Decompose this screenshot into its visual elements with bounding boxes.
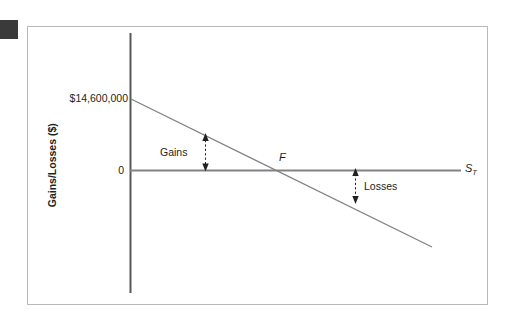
zero-tick-label: 0: [110, 165, 124, 176]
gains-label: Gains: [160, 147, 187, 158]
figure-root: $14,600,000 0 Gains/Losses ($) F ST Gain…: [0, 0, 514, 323]
payoff-line: [131, 99, 432, 247]
losses-arrow: [352, 168, 358, 204]
losses-label: Losses: [364, 181, 397, 192]
forward-price-label: F: [279, 152, 286, 163]
gains-arrow: [202, 133, 208, 172]
y-axis-title: Gains/Losses ($): [47, 110, 58, 220]
plot-canvas: [0, 0, 514, 323]
y-intercept-label: $14,600,000: [58, 93, 128, 104]
x-axis-title-subscript: T: [472, 168, 477, 177]
x-axis-title: ST: [465, 163, 477, 177]
